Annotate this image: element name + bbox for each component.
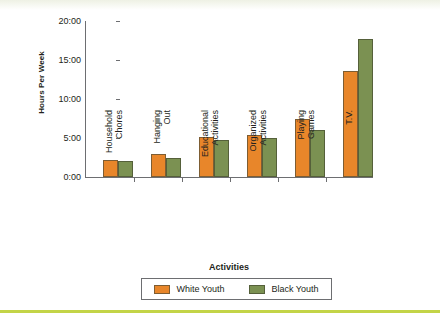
x-tick-mark-5 xyxy=(326,178,327,182)
legend-item-black-youth[interactable]: Black Youth xyxy=(249,284,318,294)
legend-label-black-youth: Black Youth xyxy=(271,284,318,294)
y-axis-tick-labels: 20:00 15:00 10:00 5:00 0:00 xyxy=(35,0,81,200)
legend-item-white-youth[interactable]: White Youth xyxy=(154,284,224,294)
legend-swatch-white-youth xyxy=(154,285,170,294)
bottom-divider-rule xyxy=(0,310,440,313)
bar-black-youth-tv xyxy=(358,39,373,177)
x-category-label-organized-activities: Organized Activities xyxy=(248,110,264,184)
x-category-label-hanging-out: Hanging Out xyxy=(152,110,168,184)
x-tick-mark-2 xyxy=(182,178,183,182)
bar-chart-figure: Hours Per Week 20:00 15:00 10:00 5:00 0:… xyxy=(0,0,440,323)
legend-label-white-youth: White Youth xyxy=(176,284,224,294)
x-category-label-household-chores: Household Chores xyxy=(104,110,120,184)
plot-area xyxy=(86,21,373,177)
x-category-label-playing-games: Playing Games xyxy=(296,110,312,184)
x-tick-mark-4 xyxy=(278,178,279,182)
x-tick-mark-1 xyxy=(134,178,135,182)
y-tick-label-0: 0:00 xyxy=(37,172,81,182)
x-axis-title: Activities xyxy=(85,262,373,272)
y-tick-label-15: 15:00 xyxy=(37,55,81,65)
y-tick-label-10: 10:00 xyxy=(37,94,81,104)
x-tick-mark-3 xyxy=(230,178,231,182)
y-tick-label-5: 5:00 xyxy=(37,133,81,143)
x-category-label-tv: T.V. xyxy=(344,110,360,184)
y-tick-label-20: 20:00 xyxy=(37,16,81,26)
x-category-label-educational-activities: Educational Activities xyxy=(200,110,216,184)
chart-legend: White Youth Black Youth xyxy=(141,278,332,300)
x-axis-line xyxy=(85,177,373,178)
legend-swatch-black-youth xyxy=(249,285,265,294)
